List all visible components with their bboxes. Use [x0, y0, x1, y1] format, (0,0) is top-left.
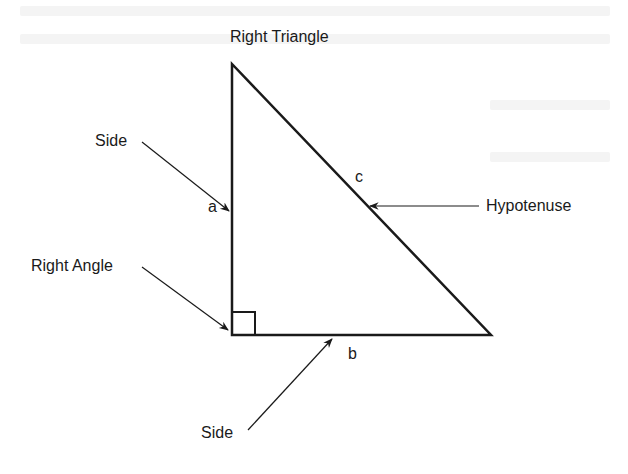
right-angle-label: Right Angle [31, 257, 113, 275]
side-bottom-label: Side [201, 424, 233, 442]
right-angle-marker [232, 312, 255, 335]
hypotenuse-label: Hypotenuse [486, 197, 571, 215]
diagram-canvas: Right Triangle Side a c Hypotenuse Right… [0, 0, 628, 474]
right-triangle-figure [0, 0, 628, 474]
diagram-title: Right Triangle [230, 28, 329, 46]
side-top-label: Side [95, 132, 127, 150]
hyp-c-label: c [355, 168, 363, 186]
right-angle-arrow [142, 267, 228, 330]
triangle-shape [232, 64, 491, 335]
leg-b-label: b [348, 345, 357, 363]
side-b-arrow [248, 339, 332, 430]
leg-a-label: a [208, 198, 217, 216]
